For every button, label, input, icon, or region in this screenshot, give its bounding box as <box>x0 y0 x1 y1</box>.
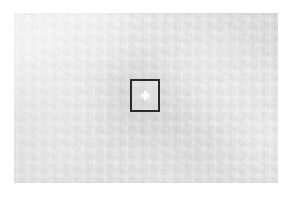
screenshot-canvas <box>0 0 292 198</box>
plus-crosshair-icon <box>141 91 150 100</box>
crosshair-vertical-bar <box>144 91 147 100</box>
